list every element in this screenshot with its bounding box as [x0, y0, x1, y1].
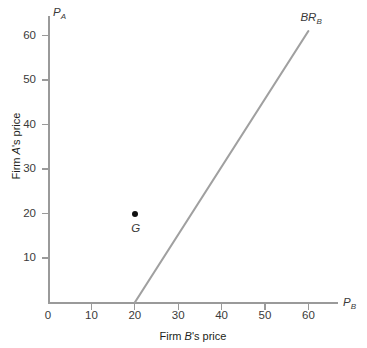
- series-label-BR-B: BRB: [300, 11, 321, 26]
- data-point-G: [132, 211, 138, 217]
- data-point-G-label: G: [131, 223, 140, 235]
- best-response-line-BR-B: [135, 31, 309, 302]
- chart-canvas: PA PB Firm A's price Firm B's price 1020…: [0, 0, 367, 348]
- plot-area-svg: [0, 0, 367, 348]
